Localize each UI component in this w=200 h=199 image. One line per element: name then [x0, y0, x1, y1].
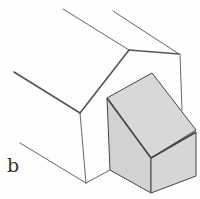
- figure-label: b: [7, 154, 19, 176]
- diagram: b: [0, 0, 200, 199]
- house-drawing: [0, 0, 200, 199]
- lean-to-box: [107, 73, 196, 193]
